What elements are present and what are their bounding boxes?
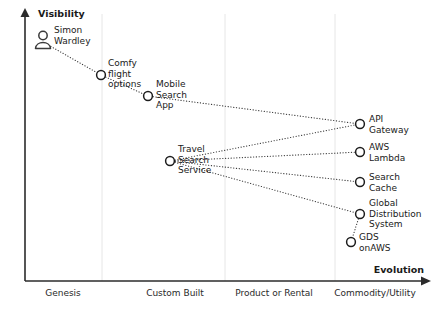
evolution-stage-label-genesis: Genesis bbox=[45, 288, 81, 298]
node-marker[interactable] bbox=[347, 238, 356, 247]
link-global-distribution-system-to-gds-onaws bbox=[353, 219, 359, 237]
person-head-icon bbox=[39, 31, 47, 39]
map-nodes: SimonWardleyComfyflightoptionsMobileSear… bbox=[36, 25, 422, 253]
node-label-gds-onaws: GDSonAWS bbox=[359, 232, 391, 253]
node-api-gateway[interactable]: APIGateway bbox=[356, 114, 410, 135]
gridlines bbox=[102, 14, 335, 281]
link-mobile-search-app-to-api-gateway bbox=[153, 97, 355, 124]
evolution-stage-label-commodity-utility: Commodity/Utility bbox=[334, 288, 416, 298]
node-comfy-flight-options[interactable]: Comfyflightoptions bbox=[97, 58, 142, 89]
wardley-map-svg: Visibility Evolution GenesisCustom Built… bbox=[0, 0, 440, 309]
node-simon-wardley[interactable]: SimonWardley bbox=[36, 25, 92, 49]
node-label-comfy-flight-options: Comfyflightoptions bbox=[108, 58, 141, 89]
node-marker[interactable] bbox=[166, 157, 175, 166]
evolution-stage-label-product-or-rental: Product or Rental bbox=[235, 288, 313, 298]
node-label-api-gateway: APIGateway bbox=[369, 114, 409, 135]
node-marker[interactable] bbox=[144, 92, 153, 101]
node-marker[interactable] bbox=[356, 178, 365, 187]
evolution-axis-title: Evolution bbox=[374, 264, 425, 275]
node-marker[interactable] bbox=[97, 71, 106, 80]
node-marker[interactable] bbox=[356, 148, 365, 157]
evolution-stage-label-custom-built: Custom Built bbox=[146, 288, 204, 298]
visibility-axis-arrow-icon bbox=[21, 8, 30, 17]
node-label-simon-wardley: SimonWardley bbox=[54, 25, 91, 46]
node-mobile-search-app[interactable]: MobileSearchApp bbox=[144, 79, 187, 110]
node-label-aws-lambda: AWSLambda bbox=[369, 142, 405, 163]
visibility-axis-title: Visibility bbox=[38, 8, 85, 19]
node-marker[interactable] bbox=[356, 210, 365, 219]
node-label-global-distribution-system: GlobalDistributionSystem bbox=[369, 198, 422, 229]
node-global-distribution-system[interactable]: GlobalDistributionSystem bbox=[356, 198, 422, 229]
node-marker[interactable] bbox=[356, 120, 365, 129]
wardley-map-canvas: Visibility Evolution GenesisCustom Built… bbox=[0, 0, 440, 309]
node-search-cache[interactable]: SearchCache bbox=[356, 172, 400, 193]
link-simon-wardley-to-comfy-flight-options bbox=[51, 46, 97, 72]
person-body-icon bbox=[36, 43, 51, 49]
evolution-stage-labels: GenesisCustom BuiltProduct or RentalComm… bbox=[45, 288, 416, 298]
node-label-travel-search-service: TravelSearchService bbox=[177, 144, 212, 175]
node-label-search-cache: SearchCache bbox=[369, 172, 400, 193]
node-label-mobile-search-app: MobileSearchApp bbox=[156, 79, 187, 110]
node-aws-lambda[interactable]: AWSLambda bbox=[356, 142, 406, 163]
evolution-axis-arrow-icon bbox=[421, 277, 431, 286]
node-travel-search-service[interactable]: TravelSearchService bbox=[166, 144, 212, 175]
